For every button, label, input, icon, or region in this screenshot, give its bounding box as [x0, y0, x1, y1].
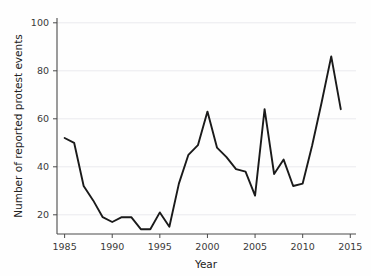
x-tick-label-2000: 2000: [195, 241, 219, 252]
x-axis-ticks-group: 1985199019952000200520102015: [53, 234, 363, 252]
x-tick-label-2005: 2005: [243, 241, 267, 252]
line-chart-canvas: 20406080100 1985199019952000200520102015…: [0, 0, 371, 276]
gridlines-group: [57, 23, 356, 215]
y-tick-label-60: 60: [37, 113, 49, 124]
x-tick-label-2015: 2015: [338, 241, 362, 252]
x-tick-label-1990: 1990: [100, 241, 124, 252]
x-tick-label-1985: 1985: [53, 241, 77, 252]
y-tick-label-20: 20: [37, 209, 49, 220]
y-tick-label-100: 100: [31, 17, 49, 28]
y-tick-label-40: 40: [37, 161, 49, 172]
chart-figure: 20406080100 1985199019952000200520102015…: [0, 0, 371, 276]
x-axis-title: Year: [194, 258, 218, 270]
x-tick-label-1995: 1995: [148, 241, 172, 252]
y-tick-label-80: 80: [37, 65, 49, 76]
data-series-line: [65, 56, 341, 229]
x-tick-label-2010: 2010: [291, 241, 315, 252]
y-axis-title: Number of reported protest events: [12, 34, 24, 218]
y-axis-ticks-group: 20406080100: [31, 17, 57, 220]
